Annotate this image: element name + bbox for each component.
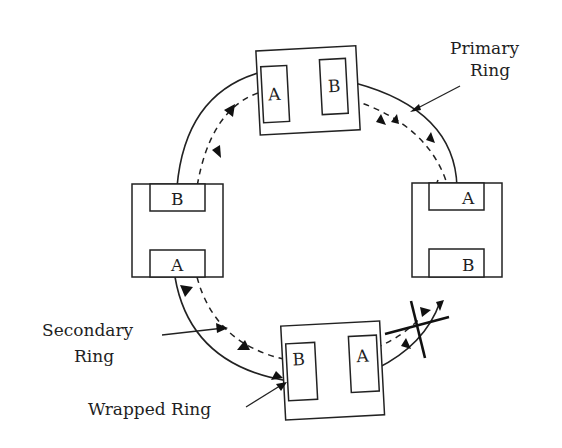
arrow-icon [212,145,221,158]
port-b-label: B [327,76,341,97]
port-a-label: A [170,255,184,275]
port-a-label: A [461,188,475,208]
station-top: A B [256,46,360,135]
svg-text:Ring: Ring [74,346,114,366]
primary-ring-label: Primary Ring [410,38,519,112]
wrapped-ring-label: Wrapped Ring [88,382,287,419]
svg-text:Ring: Ring [470,60,510,80]
arrow-icon [271,371,283,380]
arrow-icon [420,307,431,317]
port-a-label: A [355,346,370,367]
station-left: B A [132,184,223,277]
port-b-label: B [171,189,184,209]
arrow-icon [401,338,411,349]
station-right: A B [412,183,502,277]
svg-text:Primary: Primary [450,38,519,58]
svg-text:Wrapped Ring: Wrapped Ring [88,399,211,419]
arrow-icon [426,132,435,143]
port-a-label: A [267,84,282,105]
port-b-label: B [462,255,475,275]
arrow-icon [224,104,235,117]
pointer-arrow-icon [216,323,228,333]
arrow-icon [391,114,399,124]
port-b-label: B [292,349,306,370]
arrow-icon [237,340,250,350]
secondary-ring-label: Secondary Ring [42,320,228,366]
arrow-icon [180,285,193,297]
arrow-icon [376,114,386,125]
station-bottom: B A [281,321,385,420]
svg-text:Secondary: Secondary [42,320,134,340]
dual-ring-diagram: A B A B B A B A Primary Ring Secondary [0,0,562,448]
